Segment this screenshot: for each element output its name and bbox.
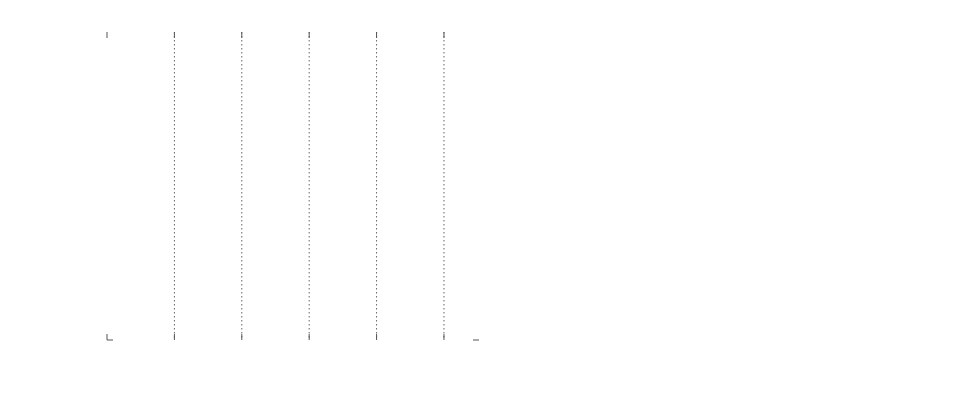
linear-time-chart — [107, 32, 479, 340]
figure — [0, 0, 974, 407]
